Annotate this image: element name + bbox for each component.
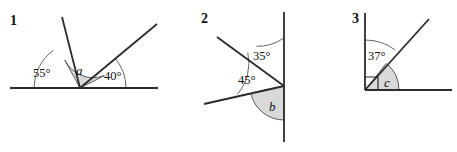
figure-2: 2 35° 45° b bbox=[165, 0, 310, 152]
angle-label-35: 35° bbox=[253, 50, 271, 63]
angle-label-c: c bbox=[384, 76, 390, 89]
figure-number-3: 3 bbox=[352, 12, 359, 26]
figure-3: 3 37° c bbox=[310, 0, 457, 152]
angle-label-b: b bbox=[269, 100, 276, 113]
angle-label-a: a bbox=[76, 64, 83, 77]
figure-1: 1 55° a 40° bbox=[0, 0, 165, 152]
angle-label-40: 40° bbox=[104, 70, 122, 83]
angle-label-37: 37° bbox=[368, 50, 386, 63]
arc-35-degrees bbox=[257, 38, 285, 46]
figure-number-1: 1 bbox=[10, 14, 17, 28]
shaded-sector-b bbox=[251, 86, 284, 120]
figure-number-2: 2 bbox=[201, 12, 208, 26]
angle-label-45: 45° bbox=[238, 74, 256, 87]
angle-label-55: 55° bbox=[33, 67, 51, 80]
angle-diagram-sheet: 1 55° a 40° 2 35° 45° b bbox=[0, 0, 457, 152]
